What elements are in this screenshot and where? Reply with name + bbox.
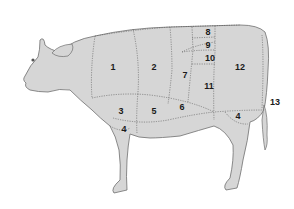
cow-ear (52, 44, 73, 57)
cut-label-9: 9 (205, 41, 210, 50)
cut-label-13: 13 (270, 98, 280, 107)
cut-label-3: 3 (118, 107, 123, 116)
cut-label-1: 1 (110, 63, 115, 72)
cow-illustration (0, 0, 294, 209)
cut-label-2: 2 (151, 63, 156, 72)
cut-label-5: 5 (151, 107, 156, 116)
cut-label-7: 7 (182, 71, 187, 80)
cut-label-12: 12 (235, 63, 245, 72)
cut-label-6: 6 (179, 103, 184, 112)
cut-label-4-rear: 4 (235, 112, 240, 121)
cut-label-8: 8 (205, 28, 210, 37)
cow-body (24, 25, 269, 193)
beef-cuts-diagram: 1 2 3 4 5 6 7 8 9 10 11 12 4 13 (0, 0, 294, 209)
cut-label-11: 11 (204, 82, 214, 91)
cut-label-10: 10 (205, 54, 215, 63)
cut-label-4-front: 4 (121, 125, 126, 134)
cow-eye (31, 58, 34, 61)
cow-tail (262, 105, 267, 150)
